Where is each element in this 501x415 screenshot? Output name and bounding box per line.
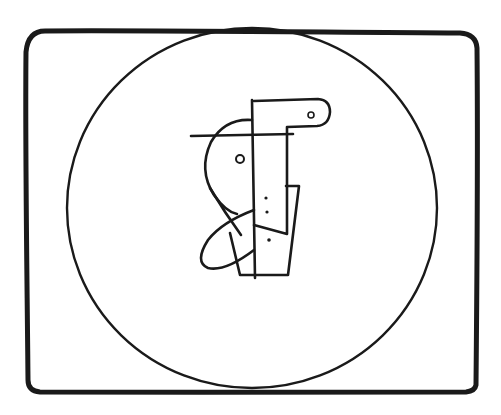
eye-circle bbox=[236, 155, 244, 163]
main-circle bbox=[67, 28, 437, 388]
dot bbox=[265, 210, 268, 213]
abstract-figure bbox=[191, 99, 330, 278]
small-circle bbox=[308, 112, 314, 118]
artwork-canvas bbox=[0, 0, 501, 415]
dot bbox=[264, 196, 267, 199]
dot bbox=[267, 238, 271, 242]
